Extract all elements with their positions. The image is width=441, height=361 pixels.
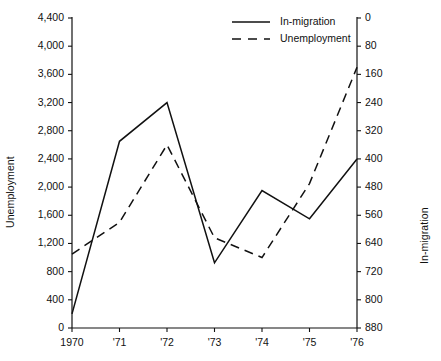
legend-label: In-migration [280, 15, 335, 27]
dual-axis-line-chart: Unemployment In-migration 04008001,2001,… [0, 0, 441, 361]
series-line-in-migration [72, 103, 357, 314]
legend-label: Unemployment [280, 32, 351, 44]
series-line-unemployment [72, 67, 357, 257]
plot-area [0, 0, 441, 361]
